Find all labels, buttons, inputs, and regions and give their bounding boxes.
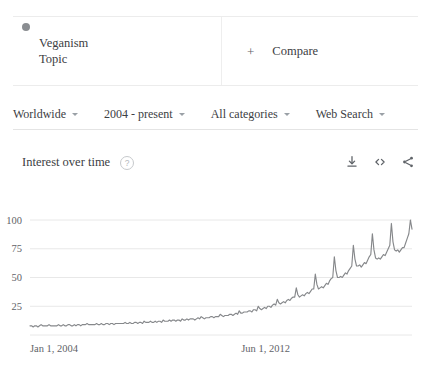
embed-icon[interactable] [373,155,387,169]
trend-line-veganism [30,220,412,327]
chart-gridlines [30,220,412,335]
filter-bar: Worldwide 2004 - present All categories … [13,100,418,130]
filter-location-label: Worldwide [13,107,66,122]
section-header: Interest over time ? [22,155,134,170]
chevron-down-icon [72,113,78,116]
chart-actions [345,155,415,169]
series-color-dot [22,23,30,31]
filter-time-range[interactable]: 2004 - present [104,107,185,122]
search-term-card[interactable]: Veganism Topic [13,17,222,85]
filter-search-type[interactable]: Web Search [316,107,385,122]
svg-text:Jun 1, 2012: Jun 1, 2012 [241,343,290,354]
chevron-down-icon [284,113,290,116]
download-icon[interactable] [345,155,359,169]
share-icon[interactable] [401,155,415,169]
interest-over-time-chart[interactable]: 255075100 Jan 1, 2004Jun 1, 2012 [0,196,431,364]
filter-category[interactable]: All categories [211,107,290,122]
chart-x-axis-labels: Jan 1, 2004Jun 1, 2012 [30,343,290,354]
filter-category-label: All categories [211,107,278,122]
svg-text:Jan 1, 2004: Jan 1, 2004 [30,343,79,354]
svg-text:25: 25 [12,301,23,312]
chevron-down-icon [379,113,385,116]
chart-y-axis-labels: 255075100 [6,215,22,312]
svg-text:75: 75 [12,243,23,254]
compare-button[interactable]: + Compare [222,17,418,85]
filter-time-range-label: 2004 - present [104,107,173,122]
filter-location[interactable]: Worldwide [13,107,78,122]
search-term-subtitle: Topic [39,51,88,68]
help-icon[interactable]: ? [120,156,134,170]
svg-text:100: 100 [6,215,22,226]
chevron-down-icon [179,113,185,116]
page-title: Interest over time [22,155,110,170]
filter-search-type-label: Web Search [316,107,373,122]
search-term-text: Veganism Topic [39,35,88,68]
compare-label: Compare [272,44,318,59]
plus-icon: + [247,45,254,58]
svg-text:50: 50 [12,272,23,283]
chart-svg: 255075100 Jan 1, 2004Jun 1, 2012 [0,196,431,364]
search-terms-row: Veganism Topic + Compare [13,16,418,86]
search-term-title: Veganism [39,35,88,52]
